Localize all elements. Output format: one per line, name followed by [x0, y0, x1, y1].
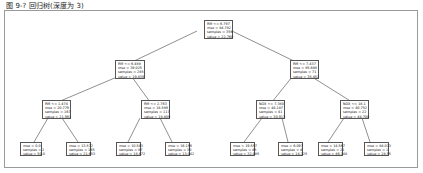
- node-value: value = 50.0: [23, 152, 39, 156]
- tree-node-right: RM <= 7.437 mse = 85.688 samples = 71 va…: [290, 60, 319, 79]
- edge-n0-n1: [132, 31, 197, 62]
- tree-node-root: RM <= 6.797 mse = 84.782 samples = 356 v…: [204, 20, 233, 39]
- tree-leaf-2: mse = 13.572 samples = 165 value = 21.65…: [66, 142, 91, 156]
- edge-n1-n3: [58, 77, 117, 102]
- edge-n6-n14: [362, 118, 370, 142]
- edge-n2-n5: [272, 77, 292, 102]
- node-value: value = 13.042: [168, 152, 187, 156]
- node-samples: samples = 117: [144, 110, 167, 114]
- node-value: value = 19.839: [118, 75, 142, 79]
- edge-n3-n7: [34, 118, 48, 142]
- node-value: value = 22.760: [207, 35, 230, 39]
- tree-leaf-3: mse = 10.583 samples = 87 value = 18.872: [116, 142, 141, 156]
- node-value: value = 35.452: [293, 75, 316, 79]
- node-value: value = 14.325: [281, 152, 300, 156]
- tree-leaf-1: mse = 0.0 samples = 2 value = 50.0: [20, 142, 42, 156]
- edge-n2-n6: [312, 77, 352, 102]
- edge-n5-n11: [244, 118, 262, 142]
- node-value: value = 21.991: [45, 115, 68, 119]
- node-value: value = 18.809: [144, 115, 167, 119]
- tree-leaf-4: mse = 16.156 samples = 30 value = 13.042: [165, 142, 190, 156]
- tree-leaf-6: mse = 6.097 samples = 4 value = 14.325: [278, 142, 303, 156]
- node-value: value = 30.913: [259, 115, 282, 119]
- tree-node-left: RM <= 6.488 mse = 39.025 samples = 285 v…: [115, 60, 145, 79]
- node-value: value = 44.700: [343, 115, 366, 119]
- tree-leaf-5: mse = 19.557 samples = 45 value = 32.085: [230, 142, 255, 156]
- tree-leaf-7: mse = 14.567 samples = 21 value = 46.148: [318, 142, 343, 156]
- tree-node-lr: RM <= 2.763 mse = 18.589 samples = 117 v…: [141, 100, 170, 119]
- node-samples: samples = 356: [207, 30, 230, 34]
- node-value: value = 18.872: [119, 152, 138, 156]
- edge-n6-n13: [328, 118, 344, 142]
- node-value: value = 21.653: [69, 152, 88, 156]
- node-samples: samples = 22: [343, 110, 366, 114]
- node-samples: samples = 285: [118, 70, 142, 74]
- edge-n5-n12: [282, 118, 288, 142]
- node-samples: samples = 167: [45, 110, 68, 114]
- edge-n4-n9: [128, 118, 140, 142]
- node-value: value = 32.085: [233, 152, 252, 156]
- node-samples: samples = 71: [293, 70, 316, 74]
- node-samples: samples = 41: [259, 110, 282, 114]
- edge-n0-n2: [232, 31, 296, 62]
- tree-leaf-8: mse = 84.013 samples = 1 value = 28.55: [364, 142, 389, 156]
- edge-n3-n8: [62, 118, 78, 142]
- node-value: value = 28.55: [367, 152, 386, 156]
- edge-n1-n4: [132, 77, 150, 102]
- node-value: value = 46.148: [321, 152, 340, 156]
- tree-node-rl: NOX <= 7.380 mse = 44.187 samples = 41 v…: [256, 100, 285, 119]
- edge-n4-n10: [160, 118, 172, 142]
- tree-node-ll: RM <= 1.474 mse = 20.779 samples = 167 v…: [42, 100, 71, 119]
- tree-node-rr: NOX <= 18.1 mse = 40.752 samples = 22 va…: [340, 100, 369, 119]
